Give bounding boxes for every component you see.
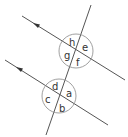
angle-label-c: c: [45, 94, 51, 105]
angle-label-a: a: [66, 88, 72, 99]
angle-diagram: h e g f d a c b: [0, 0, 128, 137]
transversal-line: [46, 5, 91, 135]
angle-label-f: f: [76, 57, 80, 68]
diagram-canvas: h e g f d a c b: [0, 0, 128, 137]
angle-label-b: b: [59, 103, 65, 114]
arrow-icon: [33, 23, 40, 28]
angle-label-d: d: [52, 81, 58, 92]
angle-label-h: h: [69, 37, 75, 48]
angle-label-g: g: [64, 50, 70, 61]
angle-label-e: e: [82, 42, 88, 53]
